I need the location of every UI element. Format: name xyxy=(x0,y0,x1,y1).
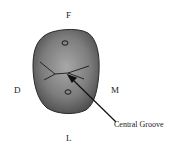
label-lingual: L xyxy=(66,134,72,143)
label-facial: F xyxy=(66,11,71,20)
label-distal: D xyxy=(14,86,21,95)
label-central-groove: Central Groove xyxy=(114,121,164,129)
label-mesial: M xyxy=(111,86,119,95)
tooth-outline xyxy=(33,29,99,113)
